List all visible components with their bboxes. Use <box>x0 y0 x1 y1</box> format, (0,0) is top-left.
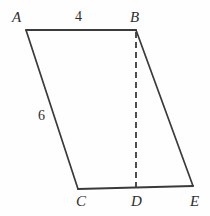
vertex-label-D: D <box>131 194 142 209</box>
edge-AC <box>26 30 78 189</box>
geometry-figure: A B C D E 4 6 <box>0 0 210 216</box>
vertex-label-C: C <box>76 194 86 209</box>
measure-label-AC: 6 <box>38 109 45 123</box>
figure-canvas <box>0 0 210 216</box>
edge-BE <box>136 30 193 186</box>
measure-label-AB: 4 <box>75 10 82 24</box>
vertex-label-E: E <box>190 194 199 209</box>
vertex-label-B: B <box>130 10 139 25</box>
vertex-label-A: A <box>12 10 21 25</box>
